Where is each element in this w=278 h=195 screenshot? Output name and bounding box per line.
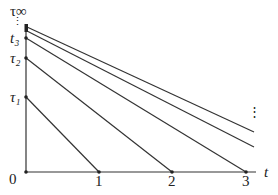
- point-t3: [24, 36, 28, 40]
- label-origin: 0: [9, 172, 17, 187]
- label-right-dots: ⋮: [248, 105, 261, 118]
- line-tau2: [26, 58, 172, 172]
- label-tau2: τ₂: [10, 51, 21, 66]
- label-t-axis: t: [264, 165, 268, 180]
- label-t3: t₃: [10, 31, 19, 46]
- label-vdots: ⋮: [12, 16, 23, 27]
- point-tau1: [24, 95, 28, 99]
- label-x1: 1: [95, 174, 103, 189]
- point-origin: [24, 170, 28, 174]
- line-4: [27, 31, 254, 147]
- line-t3: [26, 38, 246, 172]
- line-tau1: [26, 97, 99, 172]
- limit-point-marker: [25, 24, 29, 32]
- diagram-canvas: [0, 0, 278, 195]
- point-tau2: [24, 56, 28, 60]
- label-x2: 2: [168, 174, 176, 189]
- line-tau-inf: [27, 27, 254, 132]
- label-x3: 3: [242, 174, 250, 189]
- label-tau1: τ₁: [10, 90, 21, 105]
